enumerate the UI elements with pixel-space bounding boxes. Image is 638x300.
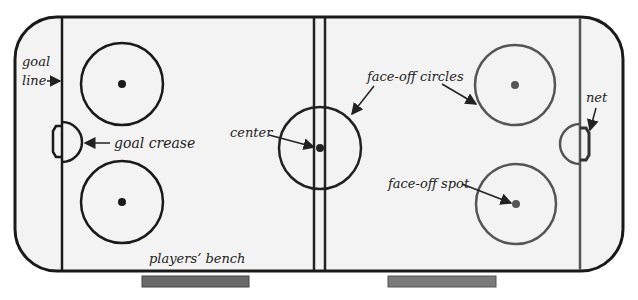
label-face-off-circles: face-off circles (367, 70, 464, 84)
label-players-bench: players’ bench (149, 252, 245, 266)
label-center: center (230, 126, 272, 140)
players-bench-right (388, 276, 496, 287)
label-goal-crease: goal crease (114, 136, 195, 150)
hockey-rink-diagram (0, 0, 638, 300)
center-spot (316, 144, 324, 152)
label-face-off-spot: face-off spot (388, 177, 469, 191)
faceoff-spot-right-bottom (512, 200, 520, 208)
label-net: net (586, 91, 607, 105)
rink-boards (15, 17, 623, 271)
label-goal-line-1: goal (22, 55, 50, 69)
faceoff-spot-right-top (511, 81, 519, 89)
faceoff-spot-left-bottom (118, 198, 126, 206)
faceoff-spot-left-top (118, 80, 126, 88)
players-bench-left (142, 276, 249, 287)
label-goal-line-2: line (22, 74, 46, 88)
